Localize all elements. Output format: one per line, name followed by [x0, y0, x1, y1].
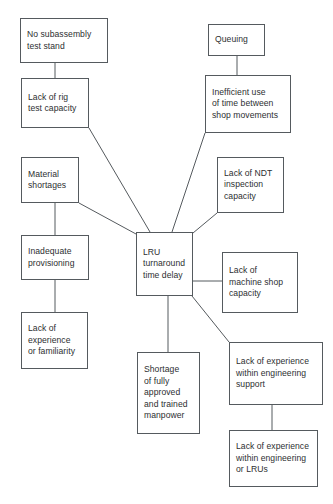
- connector-lack-of-ndt-inspection-capacity-to-lru-turnaround-time-delay: [193, 213, 217, 233]
- node-queuing[interactable]: Queuing: [208, 24, 265, 56]
- node-label: Lack of machine shop capacity: [229, 265, 283, 299]
- node-label: LRU turnaround time delay: [143, 247, 185, 281]
- node-lack-of-machine-shop-capacity[interactable]: Lack of machine shop capacity: [222, 252, 298, 313]
- node-label: Lack of rig test capacity: [28, 92, 76, 115]
- node-lack-of-ndt-inspection-capacity[interactable]: Lack of NDT inspection capacity: [217, 157, 284, 213]
- node-label: Inefficient use of time between shop mov…: [212, 87, 278, 121]
- node-label: Queuing: [215, 34, 248, 45]
- node-inadequate-provisioning[interactable]: Inadequate provisioning: [21, 235, 89, 280]
- node-label: Material shortages: [28, 169, 66, 192]
- node-label: No subassembly test stand: [27, 29, 91, 52]
- node-inefficient-use-of-time[interactable]: Inefficient use of time between shop mov…: [205, 75, 291, 133]
- node-label: Inadequate provisioning: [28, 246, 74, 269]
- node-label: Lack of experience within engineering su…: [236, 356, 309, 390]
- node-lack-of-experience-or-familiarity[interactable]: Lack of experience or familiarity: [21, 312, 88, 369]
- node-lack-of-experience-engineering-lrus[interactable]: Lack of experience within engineering or…: [229, 430, 318, 487]
- node-label: Lack of NDT inspection capacity: [224, 168, 272, 202]
- node-shortage-of-manpower[interactable]: Shortage of fully approved and trained m…: [137, 352, 200, 434]
- node-label: Lack of experience within engineering or…: [236, 441, 309, 475]
- diagram-canvas: No subassembly test standLack of rig tes…: [0, 0, 333, 504]
- node-lack-of-rig-test-capacity[interactable]: Lack of rig test capacity: [21, 78, 89, 128]
- node-label: Shortage of fully approved and trained m…: [144, 364, 188, 421]
- node-lru-turnaround-time-delay[interactable]: LRU turnaround time delay: [136, 232, 193, 296]
- connector-lack-of-rig-test-capacity-to-lru-turnaround-time-delay: [89, 128, 150, 232]
- connector-inefficient-use-of-time-to-lru-turnaround-time-delay: [172, 133, 205, 232]
- connector-material-shortages-to-lru-turnaround-time-delay: [79, 203, 136, 234]
- node-label: Lack of experience or familiarity: [28, 323, 75, 357]
- node-lack-of-experience-engineering-support[interactable]: Lack of experience within engineering su…: [229, 342, 323, 405]
- node-no-subassembly-test-stand[interactable]: No subassembly test stand: [20, 18, 108, 63]
- node-material-shortages[interactable]: Material shortages: [21, 157, 79, 203]
